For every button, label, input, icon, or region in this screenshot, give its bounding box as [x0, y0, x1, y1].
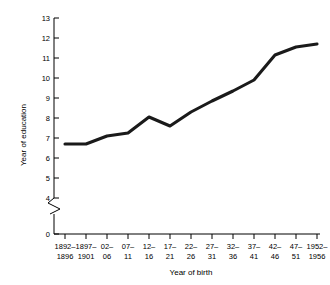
x-tick-label: 47–	[290, 242, 303, 251]
x-tick-label: 02–	[101, 242, 114, 251]
x-tick-label: 22–	[185, 242, 198, 251]
x-tick-label: 06	[103, 252, 111, 261]
x-tick-label: 32–	[227, 242, 240, 251]
y-tick-label: 6	[46, 154, 50, 163]
x-tick-labels-line2: 1896 1901 06 11 16 21 26 31 36 41 46 51 …	[57, 252, 326, 261]
y-tick-label: 5	[46, 174, 50, 183]
x-tick-label: 1952–	[307, 242, 329, 251]
x-tick-label: 1892–	[55, 242, 77, 251]
y-tick-label: 10	[42, 74, 50, 83]
y-tick-label: 0	[46, 230, 50, 239]
x-tick-label: 42–	[269, 242, 282, 251]
y-tick-marks	[54, 18, 59, 234]
data-series-line	[65, 44, 317, 144]
x-tick-label: 46	[271, 252, 279, 261]
y-tick-label: 7	[46, 134, 50, 143]
chart-container: Year of education 13 12 11 10	[0, 0, 330, 285]
x-tick-label: 36	[229, 252, 237, 261]
x-tick-label: 51	[292, 252, 300, 261]
x-tick-label: 27–	[206, 242, 219, 251]
x-tick-label: 12–	[143, 242, 156, 251]
x-tick-label: 26	[187, 252, 195, 261]
x-tick-label: 41	[250, 252, 258, 261]
x-tick-label: 31	[208, 252, 216, 261]
x-tick-marks	[65, 234, 317, 239]
y-tick-label: 8	[46, 114, 50, 123]
y-tick-label: 12	[42, 34, 50, 43]
y-tick-labels: 13 12 11 10 9 8 7 6 5 4 0	[42, 14, 50, 239]
y-tick-label: 9	[46, 94, 50, 103]
x-tick-label: 1901	[78, 252, 95, 261]
y-tick-label: 4	[46, 194, 50, 203]
x-tick-label: 07–	[122, 242, 135, 251]
x-tick-label: 1896	[57, 252, 74, 261]
x-tick-label: 11	[124, 252, 132, 261]
x-tick-label: 37–	[248, 242, 261, 251]
x-tick-label: 21	[166, 252, 174, 261]
y-tick-label: 13	[42, 14, 50, 23]
x-tick-label: 17–	[164, 242, 177, 251]
x-tick-label: 1897–	[76, 242, 98, 251]
x-axis-title: Year of birth	[170, 268, 213, 277]
x-tick-label: 16	[145, 252, 153, 261]
x-tick-labels-line1: 1892– 1897– 02– 07– 12– 17– 22– 27– 32– …	[55, 242, 329, 251]
line-chart: Year of education 13 12 11 10	[0, 0, 330, 285]
y-tick-label: 11	[42, 54, 50, 63]
y-axis-title: Year of education	[19, 104, 28, 166]
x-tick-label: 1956	[309, 252, 326, 261]
